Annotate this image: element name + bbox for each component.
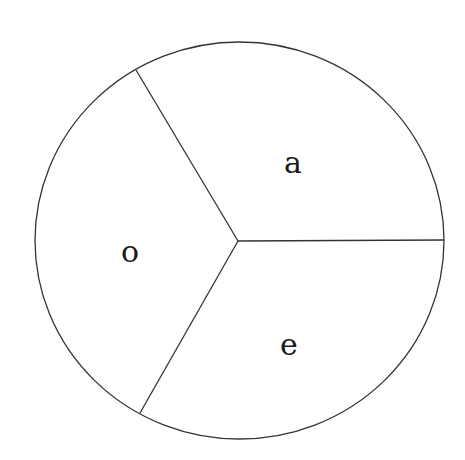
diagram-canvas: a o e: [0, 0, 465, 460]
divider-lower-left: [140, 241, 238, 413]
sector-label-a: a: [284, 145, 302, 180]
divider-right: [238, 240, 444, 241]
divided-circle-diagram: a o e: [0, 0, 465, 460]
sector-label-o: o: [121, 234, 139, 269]
divider-upper-left: [136, 70, 238, 241]
sector-label-e: e: [280, 327, 298, 362]
